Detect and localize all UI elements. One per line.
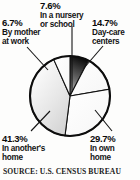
chart-figure: 7.6% In a nursery or school 6.7% By moth… xyxy=(0,0,140,180)
slice-percent-another-home: 41.3% xyxy=(2,134,64,144)
slice-percent-mother-at-work: 6.7% xyxy=(2,18,46,28)
slice-desc-another-home-line2: home xyxy=(2,153,64,163)
slice-label-own-home: 29.7% In own home xyxy=(90,134,140,163)
pie-slice-own-home[interactable] xyxy=(65,89,110,136)
slice-desc-nursery-school-line1: In a nursery xyxy=(40,11,96,21)
leader-line-mother-at-work xyxy=(27,47,48,70)
slice-label-day-care: 14.7% Day-care centers xyxy=(92,18,140,47)
slice-desc-own-home-line1: In own xyxy=(90,144,140,154)
slice-desc-another-home-line1: In another's xyxy=(2,144,64,154)
slice-label-another-home: 41.3% In another's home xyxy=(2,134,64,163)
pie-slices xyxy=(30,56,110,136)
slice-desc-mother-at-work-line2: at work xyxy=(2,37,46,47)
slice-percent-day-care: 14.7% xyxy=(92,18,140,28)
slice-percent-own-home: 29.7% xyxy=(90,134,140,144)
slice-percent-nursery-school: 7.6% xyxy=(40,1,96,11)
slice-desc-day-care-line1: Day-care xyxy=(92,28,140,38)
slice-desc-own-home-line2: home xyxy=(90,153,140,163)
slice-label-mother-at-work: 6.7% By mother at work xyxy=(2,18,46,47)
slice-desc-day-care-line2: centers xyxy=(92,37,140,47)
slice-desc-nursery-school-line2: or school xyxy=(40,20,96,30)
source-note: SOURCE: U.S. CENSUS BUREAU xyxy=(3,167,139,176)
slice-label-nursery-school: 7.6% In a nursery or school xyxy=(40,1,96,30)
slice-desc-mother-at-work-line1: By mother xyxy=(2,28,46,38)
